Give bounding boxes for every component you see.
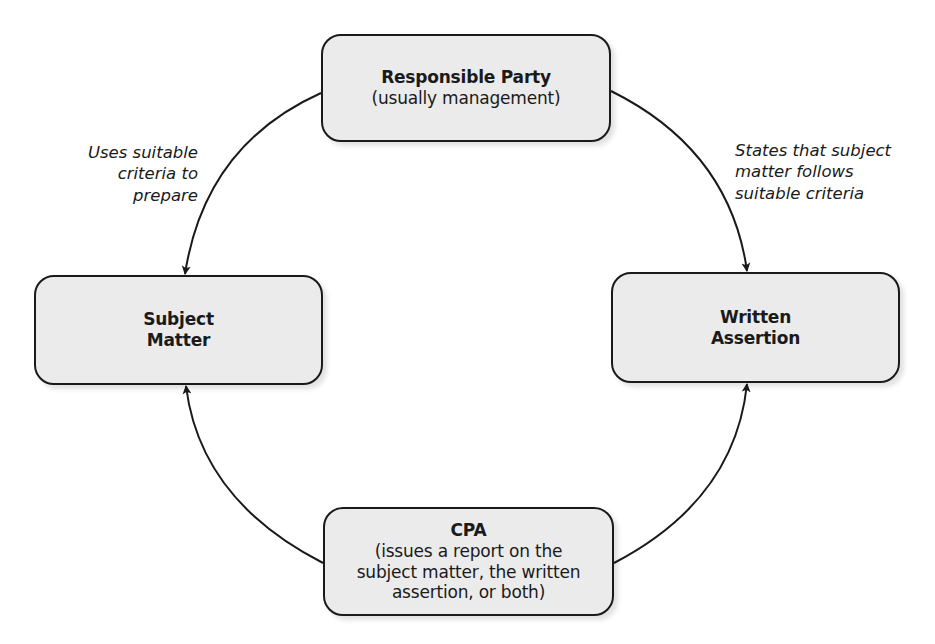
edge-label-line: matter follows xyxy=(735,161,935,182)
node-title-line-1: Written xyxy=(720,307,791,328)
arrow-responsible-to-subject xyxy=(185,93,321,274)
arrow-cpa-to-written xyxy=(614,384,747,563)
node-subtitle-line-3: assertion, or both) xyxy=(392,582,545,603)
node-subject-matter: Subject Matter xyxy=(34,275,323,385)
node-responsible-party: Responsible Party (usually management) xyxy=(321,34,611,142)
node-title-line-1: Subject xyxy=(143,309,214,330)
node-title: Responsible Party xyxy=(381,67,551,88)
edge-label-line: States that subject xyxy=(735,140,935,161)
node-subtitle-line-2: subject matter, the written xyxy=(357,562,581,583)
edge-label-states-subject-matter: States that subject matter follows suita… xyxy=(735,140,935,204)
node-subtitle: (usually management) xyxy=(372,88,561,109)
edge-label-line: suitable criteria xyxy=(735,183,935,204)
arrow-cpa-to-subject xyxy=(186,386,323,563)
node-title-line-2: Assertion xyxy=(711,328,800,349)
edge-label-line: criteria to xyxy=(40,163,198,184)
node-subtitle-line-1: (issues a report on the xyxy=(375,541,563,562)
edge-label-line: prepare xyxy=(40,185,198,206)
edge-label-line: Uses suitable xyxy=(40,142,198,163)
node-title: CPA xyxy=(451,520,487,541)
node-cpa: CPA (issues a report on the subject matt… xyxy=(323,507,614,616)
node-written-assertion: Written Assertion xyxy=(611,272,900,383)
edge-label-uses-suitable-criteria: Uses suitable criteria to prepare xyxy=(40,142,198,206)
arrow-responsible-to-written xyxy=(611,91,747,271)
node-title-line-2: Matter xyxy=(147,330,210,351)
